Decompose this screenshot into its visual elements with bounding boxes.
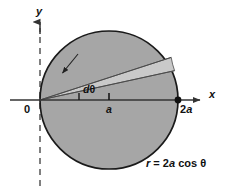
y-axis-label: y [36, 6, 42, 17]
equation-equals: = [153, 157, 159, 169]
d-theta-label: dθ [83, 84, 95, 95]
polar-equation-label: r = 2a cos θ [146, 158, 206, 169]
tick-label-a: a [106, 104, 112, 115]
equation-r: r [146, 157, 150, 169]
point-label-2a: 2a [180, 104, 192, 115]
x-axis-label: x [209, 89, 215, 100]
d-theta-symbol: θ [89, 83, 95, 95]
equation-a: a [169, 157, 175, 169]
point-label-2a-variable: a [186, 103, 192, 115]
figure-container: y x 0 a 2a dθ r = 2a cos θ [0, 0, 232, 190]
equation-theta: θ [200, 157, 206, 169]
origin-label: 0 [24, 104, 30, 115]
equation-trig: cos [178, 157, 197, 169]
